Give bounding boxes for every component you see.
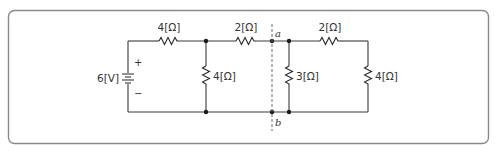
label-source: 6[V] xyxy=(97,72,119,84)
node-dot xyxy=(204,39,208,43)
label-r2: 4[Ω] xyxy=(213,70,236,82)
terminal-b-label: b xyxy=(275,117,281,128)
label-r1: 4[Ω] xyxy=(158,21,181,33)
minus-sign: − xyxy=(134,88,142,99)
circuit-figure: 4[Ω] 4[Ω] 2[Ω] 3[Ω] 2[Ω] 4[Ω] 6[V] + − a… xyxy=(0,0,496,158)
label-r3: 2[Ω] xyxy=(235,21,258,33)
node-dot xyxy=(287,110,291,114)
plus-sign: + xyxy=(134,57,142,68)
node-dot xyxy=(287,39,291,43)
label-r5: 2[Ω] xyxy=(319,21,342,33)
label-r6: 4[Ω] xyxy=(375,70,398,82)
circuit-diagram: 4[Ω] 4[Ω] 2[Ω] 3[Ω] 2[Ω] 4[Ω] 6[V] + − a… xyxy=(0,0,496,158)
terminal-a-label: a xyxy=(275,28,281,39)
label-r4: 3[Ω] xyxy=(296,70,319,82)
node-dot xyxy=(204,110,208,114)
